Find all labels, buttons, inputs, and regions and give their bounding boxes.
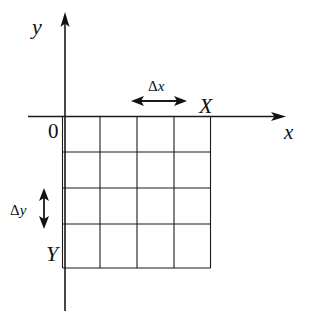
y-extent-label: Y <box>46 243 58 265</box>
y-axis-label: y <box>32 16 42 38</box>
origin-label: 0 <box>48 121 59 142</box>
delta-y-variable: y <box>20 202 27 218</box>
figure-container: y x 0 X Y Δx Δy <box>0 0 321 321</box>
delta-y-label: Δy <box>10 203 26 218</box>
x-axis-label: x <box>284 122 293 143</box>
x-extent-label: X <box>199 95 212 117</box>
coordinate-grid-figure <box>0 0 321 321</box>
delta-x-symbol: Δ <box>148 78 158 94</box>
delta-x-variable: x <box>158 78 165 94</box>
delta-x-label: Δx <box>148 79 164 94</box>
delta-y-symbol: Δ <box>10 202 20 218</box>
